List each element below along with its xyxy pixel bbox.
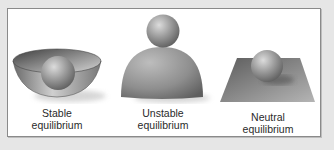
stable-label-line2: equilibrium [7,119,107,131]
unstable-label: Unstable equilibrium [113,107,213,131]
neutral-ball [251,50,283,82]
unstable-dome-illustration [121,15,210,104]
neutral-label-line2: equilibrium [218,123,318,135]
unstable-label-line2: equilibrium [113,119,213,131]
stable-label: Stable equilibrium [7,107,107,131]
neutral-label: Neutral equilibrium [218,111,318,135]
neutral-label-line1: Neutral [218,111,318,123]
unstable-label-line1: Unstable [113,107,213,119]
stable-bowl-illustration [13,49,106,102]
neutral-plane-illustration [220,50,315,102]
unstable-ball [147,15,180,48]
stable-label-line1: Stable [7,107,107,119]
stable-ball [41,56,75,90]
